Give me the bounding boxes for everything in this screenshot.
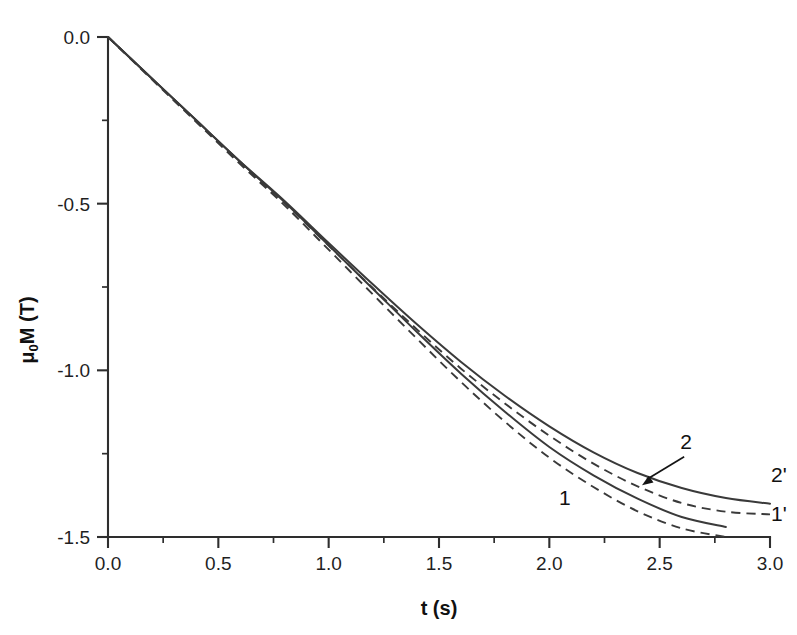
figure-container: 0.00.51.01.52.02.53.0 0.0-0.5-1.0-1.5 12… (0, 0, 797, 635)
curve-label-2-prime: 2' (771, 463, 787, 486)
x-tick-label: 3.0 (757, 553, 783, 574)
x-tick-label: 1.5 (426, 553, 452, 574)
x-tick-label: 2.5 (646, 553, 672, 574)
y-axis-title-subscript: 0 (26, 344, 41, 351)
x-tick-label: 2.0 (536, 553, 562, 574)
x-axis-title: t (s) (421, 597, 458, 619)
chart-background (0, 0, 797, 635)
curve-label-1: 1 (559, 486, 571, 509)
x-tick-label: 0.5 (205, 553, 231, 574)
svg-text:μ0M (T): μ0M (T) (16, 296, 41, 363)
y-axis-title-rest: M (T) (16, 296, 38, 344)
y-tick-label: 0.0 (64, 27, 90, 48)
y-tick-label: -0.5 (57, 194, 90, 215)
y-axis-title: μ0M (T) (16, 296, 41, 363)
y-tick-label: -1.0 (57, 360, 90, 381)
y-tick-label: -1.5 (57, 527, 90, 548)
x-tick-label: 0.0 (95, 553, 121, 574)
curve-label-1-prime: 1' (771, 502, 787, 525)
chart-plot: 0.00.51.01.52.02.53.0 0.0-0.5-1.0-1.5 12… (0, 0, 797, 635)
y-axis-title-mu: μ (16, 351, 38, 363)
x-tick-label: 1.0 (315, 553, 341, 574)
curve-label-2: 2 (680, 430, 692, 453)
